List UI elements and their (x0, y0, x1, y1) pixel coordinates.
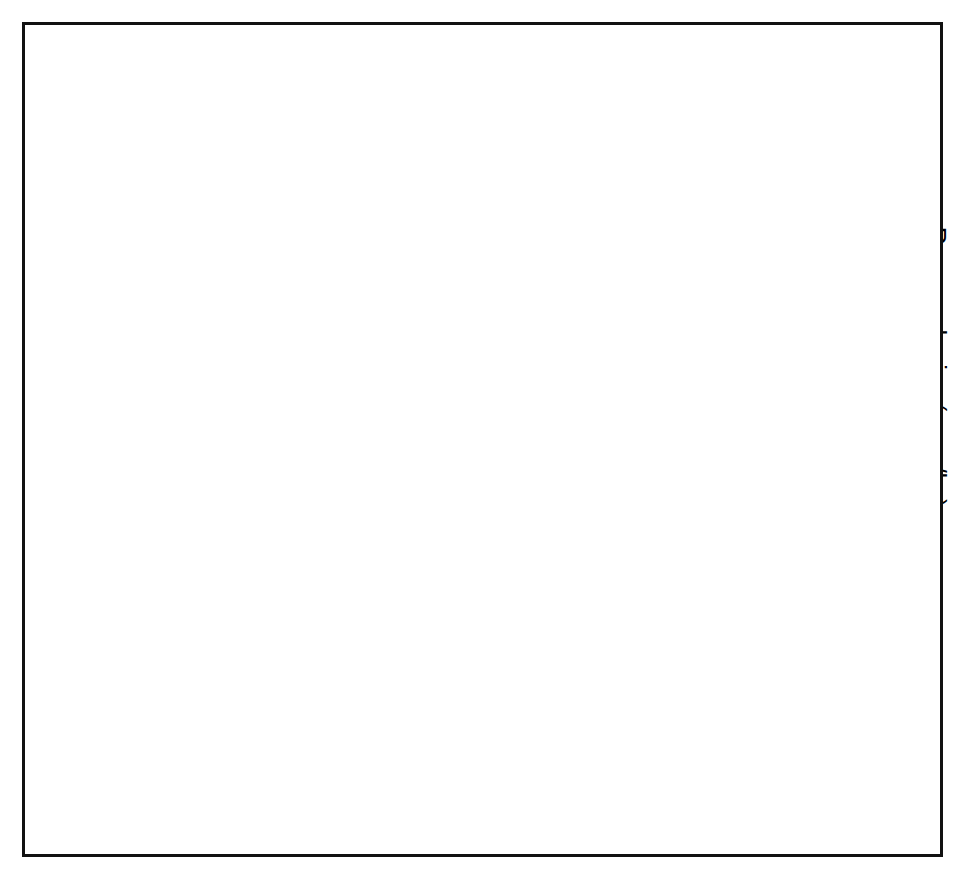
figure-frame (22, 22, 943, 857)
